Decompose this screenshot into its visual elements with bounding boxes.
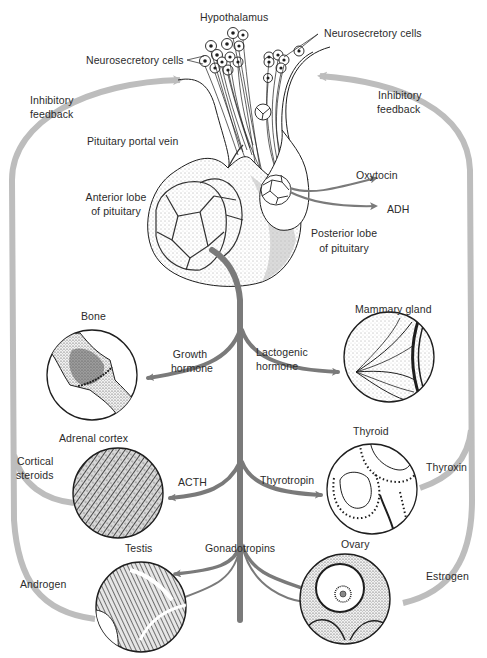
anterior-lobe-label-2: of pituitary: [68, 205, 164, 218]
posterior-lobe-label-2: of pituitary: [300, 242, 388, 255]
adh-label: ADH: [387, 203, 409, 216]
ovary-label: Ovary: [341, 538, 370, 551]
neurosecretory-cells-left-label: Neurosecretory cells: [86, 54, 184, 67]
gonadotropins-label: Gonadotropins: [205, 542, 275, 555]
inhibitory-feedback-right-label-1: Inhibitory: [378, 89, 422, 102]
testis-illustration: [96, 562, 186, 652]
cortical-steroids-label-1: Cortical: [17, 455, 53, 468]
thyrotropin-label: Thyrotropin: [260, 474, 314, 487]
cortical-steroids-label-2: steroids: [16, 469, 54, 482]
hypothalamus-label: Hypothalamus: [200, 11, 268, 24]
thyroid-label: Thyroid: [353, 425, 389, 438]
growth-hormone-label-2: hormone: [167, 362, 217, 375]
pituitary-diagram: Hypothalamus Neurosecretory cells Neuros…: [0, 0, 487, 658]
growth-hormone-label-1: Growth: [165, 348, 215, 361]
ovary-illustration: [300, 554, 392, 644]
mammary-gland-label: Mammary gland: [355, 303, 432, 316]
bone-illustration: [45, 330, 145, 420]
lactogenic-hormone-label-2: hormone: [256, 360, 298, 373]
androgen-label: Androgen: [20, 578, 66, 591]
estrogen-label: Estrogen: [426, 570, 469, 583]
testis-label: Testis: [125, 542, 152, 555]
inhibitory-feedback-right-label-2: feedback: [377, 103, 420, 116]
adrenal-cortex-label: Adrenal cortex: [59, 432, 128, 445]
acth-label: ACTH: [178, 476, 207, 489]
inhibitory-feedback-left-label-1: Inhibitory: [30, 94, 74, 107]
neurosecretory-cells-right-label: Neurosecretory cells: [324, 27, 422, 40]
pituitary-portal-vein-label: Pituitary portal vein: [87, 135, 178, 148]
thyroid-illustration: [327, 440, 424, 540]
lactogenic-hormone-label-1: Lactogenic: [256, 346, 308, 359]
inhibitory-feedback-left-label-2: feedback: [30, 108, 73, 121]
anterior-lobe-label-1: Anterior lobe: [68, 191, 164, 204]
bone-label: Bone: [81, 310, 106, 323]
oxytocin-label: Oxytocin: [356, 169, 398, 182]
thyroxin-label: Thyroxin: [426, 461, 467, 474]
mammary-gland-illustration: [344, 312, 434, 402]
hormone-trunk: [148, 250, 338, 620]
adrenal-cortex-illustration: [73, 448, 163, 538]
posterior-lobe-label-1: Posterior lobe: [300, 227, 388, 240]
